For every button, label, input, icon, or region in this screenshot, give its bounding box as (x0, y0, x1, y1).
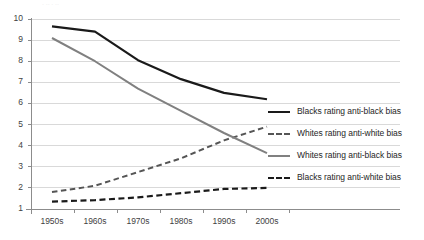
line-chart: · ·· · ·· 12345678910 1950s1960s1970s198… (0, 0, 424, 240)
y-tick-label: 8 (7, 55, 23, 65)
legend-item[interactable]: Blacks rating anti-white bias (268, 166, 424, 188)
legend-label: Whites rating anti-white bias (297, 128, 402, 138)
legend-item[interactable]: Whites rating anti-white bias (268, 122, 424, 144)
y-tick-label: 1 (7, 203, 23, 213)
y-tick-label: 7 (7, 76, 23, 86)
y-tick-label: 5 (7, 119, 23, 129)
series-line-2 (52, 127, 267, 192)
legend-item[interactable]: Blacks rating anti-black bias (268, 100, 424, 122)
legend-label: Whites rating anti-black bias (297, 150, 402, 160)
x-tick-label: 1960s (73, 216, 117, 226)
legend-line-icon (268, 172, 290, 182)
x-tick-label: 1990s (202, 216, 246, 226)
series-line-4 (52, 188, 267, 202)
x-tick-label: 1950s (30, 216, 74, 226)
legend-label: Blacks rating anti-white bias (297, 172, 401, 182)
x-tick-label: 2000s (245, 216, 289, 226)
chart-legend: Blacks rating anti-black biasWhites rati… (268, 100, 424, 188)
y-tick-label: 2 (7, 182, 23, 192)
legend-line-icon (268, 150, 290, 160)
y-tick-label: 9 (7, 34, 23, 44)
series-line-1 (52, 26, 267, 99)
legend-label: Blacks rating anti-black bias (297, 106, 401, 116)
y-tick-label: 6 (7, 97, 23, 107)
y-tick-label: 4 (7, 140, 23, 150)
series-paths (52, 26, 267, 201)
x-tick-label: 1970s (116, 216, 160, 226)
legend-line-icon (268, 106, 290, 116)
legend-item[interactable]: Whites rating anti-black bias (268, 144, 424, 166)
x-tick-label: 1980s (159, 216, 203, 226)
x-tick-marks (31, 209, 289, 213)
y-tick-label: 3 (7, 161, 23, 171)
y-tick-label: 10 (7, 13, 23, 23)
legend-line-icon (268, 128, 290, 138)
